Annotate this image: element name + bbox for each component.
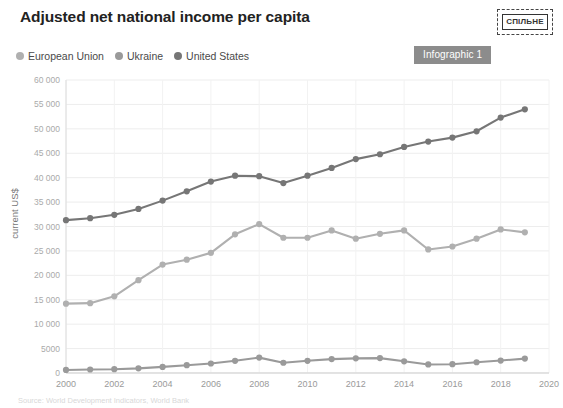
data-point-marker[interactable] (425, 246, 431, 252)
data-point-marker[interactable] (304, 235, 310, 241)
x-axis-tick-label: 2008 (239, 379, 279, 389)
data-point-marker[interactable] (160, 364, 166, 370)
data-point-marker[interactable] (160, 261, 166, 267)
data-point-marker[interactable] (280, 180, 286, 186)
x-axis-tick-label: 2020 (529, 379, 563, 389)
y-axis-tick-label: 45 000 (18, 148, 60, 158)
data-point-marker[interactable] (377, 151, 383, 157)
data-point-marker[interactable] (425, 138, 431, 144)
data-point-marker[interactable] (377, 231, 383, 237)
data-point-marker[interactable] (498, 226, 504, 232)
data-point-marker[interactable] (63, 301, 69, 307)
x-axis-tick-label: 2002 (94, 379, 134, 389)
y-axis-tick-label: 0 (18, 368, 60, 378)
x-axis-tick-label: 2016 (432, 379, 472, 389)
x-axis-tick-label: 2014 (384, 379, 424, 389)
series-line (66, 358, 525, 370)
data-point-marker[interactable] (353, 236, 359, 242)
y-axis-tick-label: 35 000 (18, 197, 60, 207)
data-point-marker[interactable] (135, 365, 141, 371)
line-chart-plot (0, 0, 563, 408)
data-point-marker[interactable] (184, 257, 190, 263)
data-point-marker[interactable] (353, 156, 359, 162)
data-point-marker[interactable] (280, 360, 286, 366)
y-axis-tick-label: 15 000 (18, 295, 60, 305)
data-point-marker[interactable] (449, 361, 455, 367)
data-point-marker[interactable] (304, 173, 310, 179)
x-axis-tick-label: 2004 (143, 379, 183, 389)
infographic-root: Adjusted net national income per capita … (0, 0, 563, 408)
data-point-marker[interactable] (425, 361, 431, 367)
data-point-marker[interactable] (522, 229, 528, 235)
x-axis-tick-label: 2018 (481, 379, 521, 389)
data-point-marker[interactable] (280, 235, 286, 241)
y-axis-tick-label: 5000 (18, 344, 60, 354)
data-point-marker[interactable] (473, 359, 479, 365)
data-point-marker[interactable] (232, 231, 238, 237)
data-point-marker[interactable] (111, 212, 117, 218)
data-point-marker[interactable] (377, 355, 383, 361)
y-axis-tick-label: 30 000 (18, 222, 60, 232)
data-point-marker[interactable] (449, 135, 455, 141)
data-point-marker[interactable] (160, 198, 166, 204)
data-point-marker[interactable] (353, 355, 359, 361)
data-point-marker[interactable] (256, 221, 262, 227)
data-point-marker[interactable] (401, 358, 407, 364)
y-axis-tick-label: 20 000 (18, 270, 60, 280)
x-axis-tick-label: 2006 (191, 379, 231, 389)
data-point-marker[interactable] (473, 236, 479, 242)
data-point-marker[interactable] (184, 362, 190, 368)
y-axis-tick-label: 10 000 (18, 319, 60, 329)
data-point-marker[interactable] (401, 227, 407, 233)
y-axis-tick-label: 55 000 (18, 99, 60, 109)
data-point-marker[interactable] (256, 173, 262, 179)
data-point-marker[interactable] (135, 206, 141, 212)
y-axis-tick-label: 60 000 (18, 75, 60, 85)
y-axis-tick-label: 50 000 (18, 124, 60, 134)
x-axis-tick-label: 2000 (46, 379, 86, 389)
data-point-marker[interactable] (208, 250, 214, 256)
data-point-marker[interactable] (208, 360, 214, 366)
data-point-marker[interactable] (256, 355, 262, 361)
source-note: Source: World Development Indicators, Wo… (18, 396, 189, 405)
data-point-marker[interactable] (184, 188, 190, 194)
data-point-marker[interactable] (498, 357, 504, 363)
x-axis-tick-label: 2010 (288, 379, 328, 389)
data-point-marker[interactable] (498, 115, 504, 121)
data-point-marker[interactable] (522, 106, 528, 112)
y-axis-tick-label: 40 000 (18, 173, 60, 183)
data-point-marker[interactable] (329, 165, 335, 171)
y-axis-title: current US$ (9, 184, 20, 244)
data-point-marker[interactable] (304, 358, 310, 364)
data-point-marker[interactable] (401, 144, 407, 150)
data-point-marker[interactable] (208, 178, 214, 184)
data-point-marker[interactable] (111, 366, 117, 372)
series-line (66, 109, 525, 220)
data-point-marker[interactable] (232, 173, 238, 179)
data-point-marker[interactable] (87, 215, 93, 221)
data-point-marker[interactable] (63, 367, 69, 373)
series-line (66, 224, 525, 304)
data-point-marker[interactable] (63, 217, 69, 223)
data-point-marker[interactable] (111, 293, 117, 299)
data-point-marker[interactable] (87, 300, 93, 306)
data-point-marker[interactable] (329, 356, 335, 362)
x-axis-tick-label: 2012 (336, 379, 376, 389)
data-point-marker[interactable] (135, 277, 141, 283)
data-point-marker[interactable] (329, 227, 335, 233)
data-point-marker[interactable] (87, 366, 93, 372)
data-point-marker[interactable] (522, 355, 528, 361)
data-point-marker[interactable] (473, 128, 479, 134)
data-point-marker[interactable] (232, 358, 238, 364)
data-point-marker[interactable] (449, 243, 455, 249)
y-axis-tick-label: 25 000 (18, 246, 60, 256)
